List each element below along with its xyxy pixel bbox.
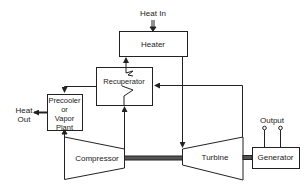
heat-in-label: Heat In: [138, 9, 168, 18]
heat-out-label: Heat Out: [14, 106, 34, 124]
shaft-compressor-turbine: [125, 156, 183, 160]
output-label: Output: [257, 116, 287, 125]
shaft-turbine-generator: [243, 156, 252, 160]
output-terminals: [263, 126, 283, 147]
heater-label: Heater: [119, 40, 187, 49]
recuperator-label: Recuperator: [96, 77, 152, 86]
turbine-label: Turbine: [190, 153, 240, 162]
precooler-label-line-2: or: [47, 105, 82, 114]
recuperator-coil-bottom: [122, 86, 133, 105]
precooler-label-line-4: Plant: [47, 123, 82, 132]
heat-out-line-1: Heat: [14, 106, 34, 115]
precooler-label-line-1: Precooler: [47, 96, 82, 105]
heat-in-arrow: [150, 20, 156, 31]
turbine-to-recup-line: [155, 86, 243, 138]
precooler-label: Precooler or Vapor Plant: [47, 96, 82, 132]
precooler-label-line-3: Vapor: [47, 114, 82, 123]
heat-out-line-2: Out: [14, 115, 34, 124]
compressor-label: Compressor: [72, 154, 122, 163]
recup-to-precooler-line: [65, 87, 97, 93]
recuperator-coil-top: [126, 67, 133, 76]
generator-label: Generator: [252, 153, 299, 162]
